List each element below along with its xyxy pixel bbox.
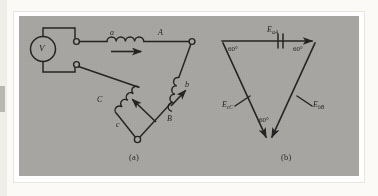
phasor-label-ecC: EcC <box>222 100 233 109</box>
phasor-label-ebB: EbB <box>313 100 324 109</box>
page-edge-shadow <box>0 86 5 112</box>
phasor-label-eaA: EaA <box>267 25 278 34</box>
panel-b-caption: (b) <box>281 152 292 162</box>
phasor-eaA-subscript: aA <box>272 29 278 35</box>
tick-ecC <box>235 96 250 106</box>
phasor-line-ebB <box>272 43 315 137</box>
panel-b-phasor-svg <box>19 16 359 176</box>
tick-ebB <box>297 96 312 106</box>
phasor-ebB-subscript: bB <box>318 104 324 110</box>
angle-label-bottom: 60° <box>259 116 269 124</box>
angle-label-top-left: 60° <box>228 45 238 53</box>
figure-page: V a A b B C c (a) <box>0 0 378 196</box>
phasor-ecC-subscript: cC <box>227 104 233 110</box>
figure-plate: V a A b B C c (a) <box>19 16 359 176</box>
angle-label-top-right: 60° <box>293 45 303 53</box>
